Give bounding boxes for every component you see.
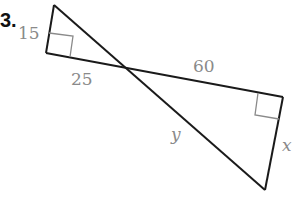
label-60: 60 bbox=[193, 56, 215, 76]
label-x: x bbox=[282, 135, 292, 155]
label-y: y bbox=[170, 124, 181, 144]
right-angle-mark-right bbox=[255, 93, 279, 119]
left-triangle-leg bbox=[46, 5, 54, 53]
label-15: 15 bbox=[18, 23, 40, 43]
hypotenuse-transversal-line bbox=[54, 5, 265, 190]
problem-number: 3. bbox=[0, 9, 17, 31]
right-triangle-leg bbox=[265, 97, 283, 190]
similar-triangles-diagram: 3. 15 25 60 y x bbox=[0, 0, 293, 203]
label-25: 25 bbox=[71, 69, 93, 89]
